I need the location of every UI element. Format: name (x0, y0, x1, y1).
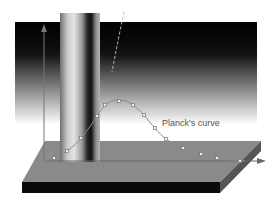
curve-point-marker (239, 160, 242, 163)
curve-point-marker (200, 153, 203, 156)
curve-point-marker (96, 115, 99, 118)
curve-point-marker (66, 150, 69, 153)
curve-point-marker (154, 127, 157, 130)
planck-curve-label: Planck's curve (162, 118, 220, 128)
slab-front (22, 182, 220, 193)
curve-point-marker (132, 104, 135, 107)
curve-point-marker (53, 157, 56, 160)
planck-diagram (0, 0, 275, 203)
gradient-backdrop (15, 22, 257, 150)
curve-point-marker (80, 137, 83, 140)
curve-point-marker (182, 147, 185, 150)
curve-point-marker (104, 104, 107, 107)
horizontal-axis-arrow-icon (257, 158, 266, 164)
curve-point-marker (143, 114, 146, 117)
curve-point-marker (118, 100, 121, 103)
curve-point-marker (216, 157, 219, 160)
curve-point-marker (165, 138, 168, 141)
